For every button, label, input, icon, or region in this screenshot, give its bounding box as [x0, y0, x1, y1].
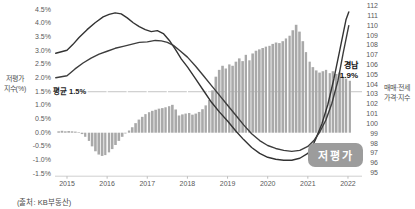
- bar: [298, 32, 301, 133]
- left-axis-title: 저평가 지수(%): [1, 74, 29, 93]
- undervalued-badge: 저평가: [308, 143, 363, 167]
- bar: [128, 131, 131, 133]
- bar: [205, 105, 208, 132]
- bar: [271, 44, 274, 133]
- right-axis-tick: 110: [364, 22, 378, 30]
- bar: [178, 115, 181, 132]
- right-axis-tick: 97: [364, 149, 378, 157]
- bar: [215, 77, 218, 133]
- bar: [158, 109, 161, 133]
- right-axis-tick: 95: [364, 169, 378, 177]
- bar: [255, 51, 258, 133]
- bar: [77, 132, 80, 133]
- region-name: 경남: [340, 61, 358, 71]
- bar: [151, 111, 154, 133]
- right-axis-tick: 108: [364, 41, 378, 49]
- bar: [231, 66, 234, 133]
- bar: [218, 70, 221, 133]
- chart-canvas: 4.5%4.0%3.5%3.0%2.5%2.0%1.5%1.0%0.5%0.0%…: [0, 0, 415, 209]
- bar: [338, 73, 341, 133]
- bar: [87, 133, 90, 141]
- bar: [71, 131, 74, 132]
- bar: [141, 117, 144, 133]
- left-axis-tick: 0.5%: [22, 115, 51, 123]
- bar: [285, 38, 288, 132]
- bar: [235, 62, 238, 133]
- bar: [181, 114, 184, 132]
- right-axis-tick: 109: [364, 32, 378, 40]
- x-axis-tick: 2020: [254, 180, 282, 188]
- left-axis-tick: 2.5%: [22, 60, 51, 68]
- bar: [225, 69, 228, 133]
- bar: [318, 73, 321, 133]
- chart-plot-area: [0, 0, 415, 209]
- x-axis-tick: 2019: [214, 180, 242, 188]
- right-axis-tick: 99: [364, 130, 378, 138]
- bar: [67, 131, 70, 133]
- bar: [194, 114, 197, 133]
- bar: [191, 115, 194, 133]
- bar: [275, 43, 278, 133]
- left-axis-tick: 4.5%: [22, 6, 51, 14]
- bar: [111, 133, 114, 149]
- left-axis-title-line2: 지수(%): [1, 84, 29, 94]
- right-axis-tick: 100: [364, 120, 378, 128]
- bar: [131, 127, 134, 132]
- x-axis-tick: 2021: [294, 180, 322, 188]
- bar: [174, 109, 177, 132]
- bar: [291, 30, 294, 132]
- bar: [325, 70, 328, 133]
- bar: [348, 81, 351, 133]
- bar: [118, 133, 121, 141]
- right-axis-tick: 98: [364, 140, 378, 148]
- bar: [265, 47, 268, 133]
- bar: [251, 53, 254, 132]
- bar: [64, 131, 67, 132]
- bar: [81, 133, 84, 134]
- right-axis-title-line2: 가격·지수: [384, 93, 410, 103]
- bar: [295, 25, 298, 133]
- region-current-value-label: 경남 1.9%: [340, 61, 358, 80]
- bar: [164, 107, 167, 132]
- bar: [97, 133, 100, 155]
- bar: [114, 133, 117, 145]
- bar: [258, 49, 261, 132]
- bar: [261, 48, 264, 133]
- right-axis-tick: 103: [364, 90, 378, 98]
- left-axis-title-line1: 저평가: [1, 74, 29, 84]
- left-axis-tick: 0.0%: [22, 129, 51, 137]
- bar: [104, 133, 107, 155]
- x-axis-tick: 2016: [93, 180, 121, 188]
- bar: [312, 67, 315, 133]
- bar: [201, 109, 204, 133]
- region-value: 1.9%: [340, 71, 358, 81]
- bar: [315, 70, 318, 132]
- bar: [184, 114, 187, 133]
- left-axis-tick: -1.0%: [22, 156, 51, 164]
- right-axis-tick: 111: [364, 12, 378, 20]
- x-axis-tick: 2022: [334, 180, 362, 188]
- right-axis-tick: 106: [364, 61, 378, 69]
- x-axis-tick: 2017: [133, 180, 161, 188]
- bar: [171, 105, 174, 133]
- bar: [305, 52, 308, 133]
- bar: [61, 131, 64, 133]
- bar: [211, 90, 214, 132]
- x-axis-tick: 2018: [173, 180, 201, 188]
- bar: [84, 133, 87, 137]
- left-axis-tick: -0.5%: [22, 142, 51, 150]
- bar: [108, 133, 111, 153]
- right-axis-tick: 107: [364, 51, 378, 59]
- left-axis-tick: -1.5%: [22, 170, 51, 178]
- right-axis-tick: 112: [364, 2, 378, 10]
- bar: [245, 55, 248, 133]
- right-axis-tick: 96: [364, 159, 378, 167]
- bar: [154, 110, 157, 133]
- right-axis-tick: 101: [364, 110, 378, 118]
- left-axis-tick: 3.0%: [22, 47, 51, 55]
- right-axis-tick: 104: [364, 81, 378, 89]
- bar: [121, 133, 124, 137]
- bar: [94, 133, 97, 152]
- left-axis-tick: 3.5%: [22, 33, 51, 41]
- bar: [248, 60, 251, 132]
